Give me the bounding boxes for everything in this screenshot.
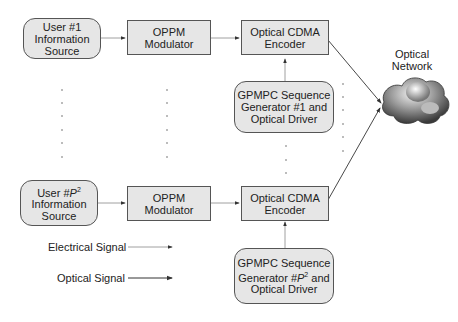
user-1-information-source: User #1 Information Source [23, 18, 101, 59]
oppm-modulator-1: OPPM Modulator [127, 20, 211, 55]
cloud-icon [382, 78, 448, 124]
user-p2-prefix: User # [37, 186, 69, 198]
legend-electrical-label: Electrical Signal [48, 241, 126, 253]
gpmpc-generator-1: GPMPC Sequence Generator #1 and Optical … [234, 81, 334, 133]
network-line2: Network [387, 60, 437, 72]
modulator-p2-line1: OPPM [145, 192, 194, 204]
optical-network-label: Optical Network [387, 48, 437, 72]
generator-p2-prefix: Generator # [238, 271, 297, 283]
encoder-p2-line1: Optical CDMA [250, 192, 320, 204]
oppm-modulator-p2: OPPM Modulator [127, 186, 211, 221]
generator-1-line1: GPMPC Sequence [238, 89, 331, 101]
encoder-1-line2: Encoder [250, 38, 320, 50]
user-p2-line1: User #P2 [31, 184, 86, 199]
network-line1: Optical [387, 48, 437, 60]
gpmpc-generator-p2: GPMPC Sequence Generator #P2 and Optical… [234, 248, 334, 304]
encoder-1-line1: Optical CDMA [250, 26, 320, 38]
user-p2-line3: Source [31, 210, 86, 222]
user-p2-line2: Information [31, 198, 86, 210]
user-p2-var: P [70, 186, 77, 198]
user-1-line2: Information [34, 33, 89, 45]
modulator-p2-line2: Modulator [145, 204, 194, 216]
user-p2-sup: 2 [77, 186, 81, 193]
legend-optical-label: Optical Signal [57, 272, 125, 284]
modulator-1-line1: OPPM [145, 26, 194, 38]
generator-p2-line2: Generator #P2 and [238, 269, 331, 284]
modulator-1-line2: Modulator [145, 38, 194, 50]
generator-p2-line1: GPMPC Sequence [238, 257, 331, 269]
user-1-line1: User #1 [34, 21, 89, 33]
user-1-line3: Source [34, 45, 89, 57]
encoder-p2-line2: Encoder [250, 204, 320, 216]
generator-1-line2: Generator #1 and [238, 101, 331, 113]
optical-cdma-encoder-p2: Optical CDMA Encoder [241, 186, 329, 221]
wire-encoderP-to-network [328, 108, 380, 200]
optical-cdma-encoder-1: Optical CDMA Encoder [241, 20, 329, 55]
generator-1-line3: Optical Driver [238, 113, 331, 125]
generator-p2-suffix: and [308, 271, 329, 283]
generator-p2-line3: Optical Driver [238, 283, 331, 295]
user-p2-information-source: User #P2 Information Source [20, 180, 98, 226]
wire-encoder1-to-network [328, 40, 381, 103]
